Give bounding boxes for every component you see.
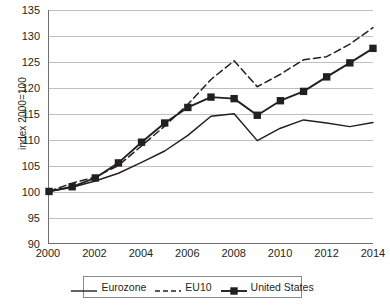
y-axis-tick-label: 105 xyxy=(22,161,40,172)
y-axis-tick-label: 130 xyxy=(22,31,40,42)
data-point-marker xyxy=(161,119,168,126)
x-axis-tick-label: 2012 xyxy=(307,248,347,259)
series-united-states xyxy=(45,45,376,195)
x-axis-tick-label: 2002 xyxy=(74,248,114,259)
x-axis-tick-labels: 20002002200420062008201020122014 xyxy=(48,248,373,268)
x-axis-tick-label: 2010 xyxy=(260,248,300,259)
data-point-marker xyxy=(92,174,99,181)
data-point-marker xyxy=(346,59,353,66)
legend-swatch-icon xyxy=(155,282,181,292)
y-axis-tick-label: 115 xyxy=(22,109,40,120)
data-point-marker xyxy=(184,104,191,111)
y-axis-tick-label: 120 xyxy=(22,83,40,94)
legend-item-eu10[interactable]: EU10 xyxy=(155,281,211,293)
y-axis-tick-labels: 9095100105110115120125130135 xyxy=(0,0,44,254)
x-axis-tick-label: 2000 xyxy=(28,248,68,259)
x-axis-tick-label: 2008 xyxy=(214,248,254,259)
y-axis-tick-label: 100 xyxy=(22,187,40,198)
data-point-marker xyxy=(138,138,145,145)
series-line xyxy=(49,28,373,192)
x-axis-tick-label: 2014 xyxy=(353,248,390,259)
legend-label: United States xyxy=(251,281,314,293)
x-axis-tick-label: 2004 xyxy=(121,248,161,259)
series-eu10 xyxy=(49,28,373,192)
legend-label: EU10 xyxy=(185,281,211,293)
data-point-marker xyxy=(115,159,122,166)
data-point-marker xyxy=(277,97,284,104)
data-point-marker xyxy=(207,93,214,100)
chart-legend: EurozoneEU10United States xyxy=(83,276,302,298)
y-axis-tick-label: 135 xyxy=(22,5,40,16)
data-point-marker xyxy=(300,88,307,95)
data-point-marker xyxy=(68,183,75,190)
data-point-marker xyxy=(369,45,376,52)
legend-swatch-icon xyxy=(221,282,247,292)
series-layer xyxy=(49,10,373,243)
legend-item-eurozone[interactable]: Eurozone xyxy=(71,281,146,293)
plot-area xyxy=(48,10,373,244)
data-point-marker xyxy=(323,73,330,80)
data-point-marker xyxy=(45,188,52,195)
x-axis-tick-label: 2006 xyxy=(167,248,207,259)
y-axis-tick-label: 125 xyxy=(22,57,40,68)
y-axis-tick-label: 95 xyxy=(28,213,40,224)
data-point-marker xyxy=(230,95,237,102)
legend-item-united-states[interactable]: United States xyxy=(221,281,314,293)
legend-label: Eurozone xyxy=(101,281,146,293)
y-axis-tick-label: 110 xyxy=(22,135,40,146)
data-point-marker xyxy=(254,112,261,119)
legend-swatch-icon xyxy=(71,282,97,292)
series-line xyxy=(49,48,373,191)
